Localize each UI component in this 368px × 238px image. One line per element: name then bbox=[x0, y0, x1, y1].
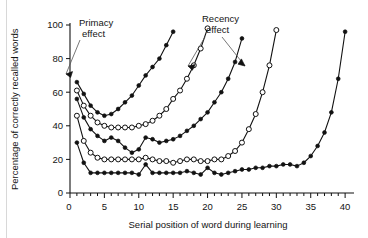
data-point bbox=[143, 122, 148, 127]
data-point bbox=[96, 134, 100, 138]
data-point bbox=[144, 163, 148, 167]
data-point bbox=[123, 100, 127, 104]
x-axis-ticks bbox=[70, 193, 345, 198]
data-point bbox=[136, 157, 141, 162]
data-point bbox=[164, 159, 169, 164]
data-point bbox=[102, 157, 107, 162]
data-point bbox=[192, 124, 196, 128]
series-line bbox=[77, 30, 276, 163]
data-point bbox=[74, 113, 79, 118]
y-tick-label: 40 bbox=[52, 120, 63, 131]
data-point bbox=[116, 171, 120, 175]
data-point bbox=[233, 149, 238, 154]
data-point bbox=[309, 154, 313, 158]
x-axis-label: Serial position of word during learning bbox=[129, 219, 288, 230]
primacy-leader-line bbox=[66, 40, 80, 74]
data-point bbox=[151, 171, 155, 175]
data-point bbox=[274, 28, 279, 33]
data-point bbox=[343, 30, 347, 34]
data-point bbox=[199, 117, 203, 121]
y-tick-label: 20 bbox=[52, 154, 63, 165]
data-point bbox=[129, 125, 134, 130]
data-point bbox=[206, 166, 210, 170]
data-point bbox=[129, 157, 134, 162]
data-point bbox=[150, 118, 155, 123]
data-point bbox=[185, 169, 189, 173]
data-point bbox=[89, 127, 93, 131]
data-point bbox=[130, 151, 134, 155]
data-point bbox=[164, 171, 168, 175]
data-point bbox=[323, 131, 327, 135]
recency-annotation-line1: Recency bbox=[202, 13, 239, 24]
data-point bbox=[240, 168, 244, 172]
page-left-rule bbox=[6, 0, 7, 238]
primacy-annotation-line2: effect bbox=[82, 28, 105, 39]
x-tick-label: 10 bbox=[133, 201, 144, 212]
data-point bbox=[136, 123, 141, 128]
data-point bbox=[213, 171, 217, 175]
x-tick-label: 40 bbox=[340, 201, 351, 212]
data-point bbox=[226, 154, 231, 159]
x-axis-tick-labels: 5101520253035400 bbox=[66, 201, 350, 212]
data-point bbox=[116, 157, 121, 162]
x-tick-label: 20 bbox=[202, 201, 213, 212]
recency-arrowhead-left bbox=[188, 65, 195, 71]
data-point bbox=[109, 125, 114, 130]
data-point bbox=[260, 90, 265, 95]
data-point bbox=[254, 166, 258, 170]
data-point bbox=[171, 137, 175, 141]
data-point bbox=[171, 160, 176, 165]
data-point bbox=[213, 100, 217, 104]
data-point bbox=[268, 164, 272, 168]
y-tick-label: 100 bbox=[47, 19, 63, 30]
data-series bbox=[74, 26, 210, 130]
y-axis-tick-labels: 020406080100 bbox=[47, 19, 63, 198]
data-point bbox=[82, 116, 86, 120]
data-point bbox=[151, 65, 155, 69]
recency-annotation-line2: effect bbox=[206, 24, 229, 35]
data-point bbox=[226, 77, 230, 81]
data-point bbox=[219, 157, 224, 162]
data-point bbox=[302, 161, 306, 165]
data-point bbox=[261, 166, 265, 170]
y-axis-label: Percentage of correctly recalled words bbox=[9, 28, 20, 190]
data-point bbox=[88, 113, 93, 118]
data-point bbox=[233, 169, 237, 173]
data-point bbox=[102, 171, 106, 175]
data-point bbox=[102, 114, 106, 118]
data-point bbox=[109, 171, 113, 175]
recency-leader-left bbox=[188, 37, 205, 66]
data-point bbox=[137, 147, 141, 151]
data-point bbox=[239, 140, 244, 145]
data-point bbox=[95, 120, 100, 125]
data-series bbox=[75, 30, 347, 177]
data-point bbox=[130, 94, 134, 98]
data-point bbox=[143, 155, 148, 160]
data-point bbox=[219, 90, 223, 94]
data-point bbox=[123, 146, 127, 150]
data-point bbox=[75, 97, 79, 101]
data-point bbox=[82, 92, 86, 96]
data-point bbox=[123, 125, 128, 130]
data-series bbox=[75, 30, 175, 118]
y-tick-label: 60 bbox=[52, 87, 63, 98]
data-point bbox=[116, 125, 121, 130]
data-point bbox=[274, 164, 278, 168]
data-point bbox=[178, 159, 183, 164]
data-point bbox=[316, 144, 320, 148]
data-point bbox=[164, 107, 169, 112]
data-point bbox=[88, 150, 93, 155]
y-tick-label: 80 bbox=[52, 53, 63, 64]
data-point bbox=[171, 171, 175, 175]
data-point bbox=[281, 163, 285, 167]
data-point bbox=[109, 157, 114, 162]
data-point bbox=[81, 138, 86, 143]
data-point bbox=[295, 164, 299, 168]
data-point bbox=[102, 139, 106, 143]
data-point bbox=[206, 110, 210, 114]
data-point bbox=[123, 171, 127, 175]
data-point bbox=[329, 110, 333, 114]
data-point bbox=[246, 127, 251, 132]
data-point bbox=[158, 141, 162, 145]
x-tick-label-zero: 0 bbox=[66, 201, 71, 212]
